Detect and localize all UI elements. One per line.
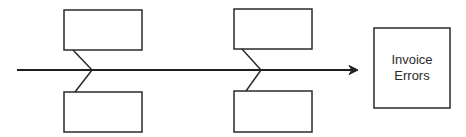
effect-label: Invoice Errors — [374, 28, 450, 108]
cause-box-right-bottom[interactable] — [234, 91, 312, 132]
cause-box-left-bottom[interactable] — [64, 92, 142, 132]
cause-box-left-top[interactable] — [64, 10, 142, 50]
effect-label-line1: Invoice — [391, 52, 432, 68]
effect-label-line2: Errors — [394, 68, 429, 84]
cause-box-right-top[interactable] — [234, 9, 312, 49]
